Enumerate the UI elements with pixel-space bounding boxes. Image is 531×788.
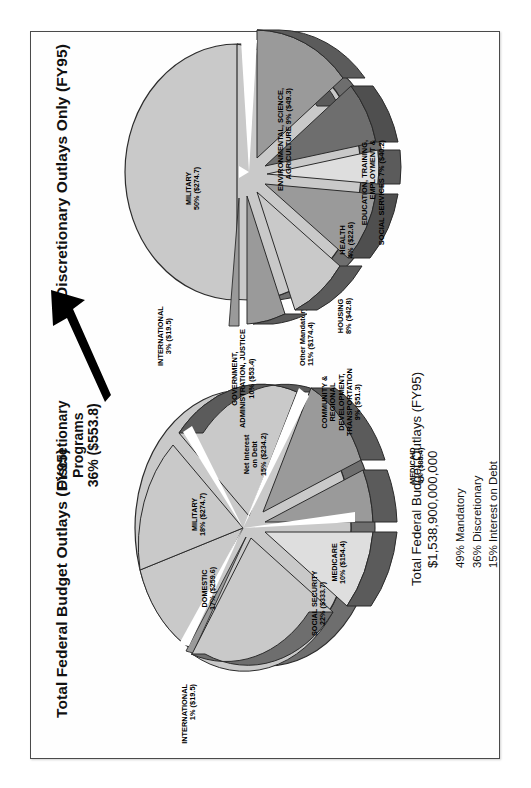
summary-item-interest: 15% Interest on Debt (485, 372, 502, 568)
label-environmental-science-agriculture: ENVIRONMENTAL, SCIENCE, AGRICULTURE 9% (… (277, 88, 294, 254)
summary-list: 49% Mandatory 36% Discretionary 15% Inte… (452, 372, 502, 586)
label-value: 10% ($53.4) (247, 358, 256, 398)
slice-value: 22% ($333.7) (318, 582, 327, 625)
label-international-total: INTERNATIONAL 1% ($19.5) (181, 684, 198, 758)
label-housing: HOUSING 8% ($42.8) (337, 298, 354, 334)
label-value: 8% ($42.8) (344, 298, 353, 334)
label-value: 3% ($19.5) (164, 318, 173, 354)
label-name-line3: SOCIAL SERVICES 7% ($40.2) (377, 140, 386, 245)
scanned-page: Total Federal Budget Outlays (FY95) (0, 0, 531, 788)
label-value: 4% ($22.6) (346, 222, 355, 258)
slice-value: 17% ($259.6) (208, 567, 217, 610)
summary-total-amount: $1,538,900,000,000 (425, 451, 441, 586)
summary-item-mandatory: 49% Mandatory (452, 372, 469, 568)
label-international-discretionary: INTERNATIONAL 3% ($19.5) (157, 306, 174, 366)
discretionary-programs-callout: Discretionary Programs 36% ($553.8) (55, 401, 102, 490)
discretionary-chart-title: Discretionary Outlays Only (FY95) (53, 44, 71, 298)
slice-label-military-discretionary: MILITARY 50% ($274.7) (185, 167, 202, 210)
callout-line3: 36% ($553.8) (85, 403, 101, 487)
summary-title: Total Federal Budget Outlays (FY95) $1,5… (409, 372, 441, 586)
page-frame: Total Federal Budget Outlays (FY95) (30, 31, 500, 759)
slice-label-domestic: DOMESTIC 17% ($259.6) (201, 567, 218, 610)
summary-title-line1: Total Federal Budget Outlays (FY95) (409, 372, 424, 586)
label-value: 1% ($19.5) (188, 684, 197, 720)
label-community-regional-development: COMMUNITY & REGIONAL DEVELOPMENT, TRANSP… (321, 368, 362, 436)
slice-value: 18% ($274.7) (198, 493, 207, 536)
label-value: 9% ($51.3) (353, 384, 362, 420)
slice-value: 10% ($154.4) (338, 541, 347, 584)
slice-label-social-security: SOCIAL SECURITY 22% ($333.7) (311, 571, 328, 636)
label-health: HEALTH 4% ($22.6) (339, 222, 356, 258)
slice-label-military: MILITARY 18% ($274.7) (191, 493, 208, 536)
slice-label-net-interest: Net Interest on Debt 15% ($234.2) (243, 433, 268, 476)
summary-item-discretionary: 36% Discretionary (469, 372, 486, 568)
rotated-page-content: Total Federal Budget Outlays (FY95) (31, 32, 499, 758)
slice-value: 15% ($234.2) (259, 433, 268, 476)
label-name-line2: AGRICULTURE 9% ($49.3) (284, 88, 293, 179)
label-education-training-employment: EDUCATION, TRAINING, EMPLOYMENT & SOCIAL… (361, 140, 386, 288)
callout-line2: Programs (70, 413, 86, 478)
label-value: 11% ($174.4) (306, 322, 315, 366)
summary-block: Total Federal Budget Outlays (FY95) $1,5… (409, 372, 502, 586)
slice-value: 50% ($274.7) (192, 167, 201, 210)
pointer-arrow-icon (47, 286, 117, 406)
callout-line1: Discretionary (54, 401, 70, 490)
slice-label-medicare: MEDICARE 10% ($154.4) (331, 541, 348, 584)
label-government-administration-justice: GOVERNMENT, ADMINISTRATION, JUSTICE 10% … (231, 329, 256, 428)
